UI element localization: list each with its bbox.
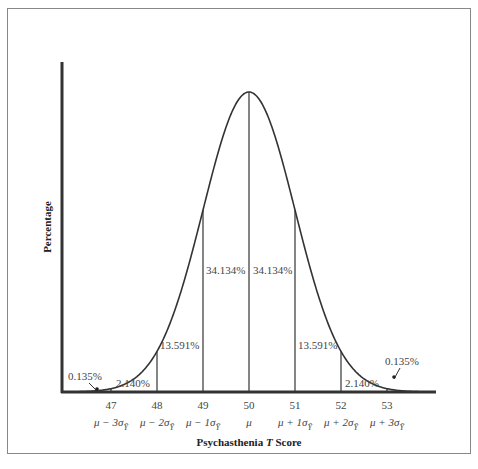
x-axis-label: Psychasthenia T Score [197,436,302,448]
x-tick-label: 49 [198,399,210,411]
x-sigma-label: μ + 1σȲ [277,416,313,432]
region-percent-label: 0.135% [68,370,102,382]
arrow-head-icon [95,387,99,391]
region-percent-label: 13.591% [298,339,337,351]
x-sigma-label: μ − 1σȲ [185,416,221,432]
x-sigma-label: μ − 2σȲ [139,416,175,432]
region-percent-label: 2.140% [345,377,379,389]
x-tick-label: 48 [152,399,164,411]
x-sigma-label: μ − 3σȲ [93,416,129,432]
x-sigma-label: μ + 3σȲ [369,416,405,432]
region-percent-label: 2.140% [116,377,150,389]
normal-curve-chart: 47μ − 3σȲ48μ − 2σȲ49μ − 1σȲ50μ51μ + 1σȲ5… [0,0,478,469]
curve-layer [63,92,436,392]
x-tick-label: 52 [336,399,347,411]
region-percent-label: 34.134% [206,264,245,276]
x-sigma-label: μ + 2σȲ [323,416,359,432]
x-tick-label: 50 [244,399,256,411]
labels-layer: 47μ − 3σȲ48μ − 2σȲ49μ − 1σȲ50μ51μ + 1σȲ5… [68,264,419,432]
region-percent-label: 0.135% [385,355,419,367]
x-sigma-label: μ [245,416,252,428]
arrow-head-icon [392,375,396,379]
y-axis-label: Percentage [41,201,53,253]
x-tick-label: 47 [106,399,118,411]
x-tick-label: 53 [382,399,394,411]
x-tick-label: 51 [290,399,301,411]
region-percent-label: 13.591% [160,339,199,351]
region-percent-label: 34.134% [253,264,292,276]
